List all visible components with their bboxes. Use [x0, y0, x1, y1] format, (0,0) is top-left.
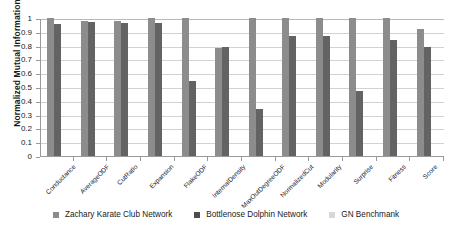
y-axis-tick-label: 0.2 — [21, 125, 32, 133]
y-axis-tick-labels: 00.10.20.30.40.50.60.70.80.91 — [0, 19, 36, 157]
y-axis-tick-label: 0.1 — [21, 139, 32, 147]
legend-item[interactable]: GN Benchmank — [329, 210, 399, 219]
bar — [249, 18, 256, 156]
x-axis-label-cell: Score — [410, 161, 444, 207]
y-axis-tick-label: 0.8 — [21, 43, 32, 51]
bar-group — [175, 19, 209, 156]
x-axis-label-cell: AverageODF — [74, 161, 108, 207]
legend-swatch-icon — [53, 212, 59, 218]
plot-area — [40, 19, 444, 157]
y-axis-tick-label: 0 — [28, 153, 32, 161]
legend-swatch-icon — [329, 212, 335, 218]
x-axis-tick-label: Expansion — [148, 163, 175, 190]
bar-group — [142, 19, 176, 156]
legend-label: GN Benchmank — [341, 210, 399, 219]
bar-group — [209, 19, 243, 156]
bar — [155, 23, 162, 156]
bar — [390, 40, 397, 156]
bar — [215, 48, 222, 156]
bar — [356, 91, 363, 156]
bar — [282, 18, 289, 156]
x-axis-tick-label: Surprise — [352, 163, 374, 185]
x-axis-tick-label: Score — [422, 163, 439, 180]
bar-chart: Normalized Mutual Information 00.10.20.3… — [0, 0, 452, 239]
x-axis-tick-label: Conductance — [44, 163, 76, 195]
x-axis-label-cell: CutRatio — [107, 161, 141, 207]
x-axis-label-cell: MaxOutDegreeODF — [242, 161, 276, 207]
x-axis-label-cell: InternalDensity — [208, 161, 242, 207]
bar — [121, 23, 128, 156]
bar — [54, 24, 61, 156]
legend-label: Zachary Karate Club Network — [65, 210, 172, 219]
x-axis-label-cell: FlakeODF — [175, 161, 209, 207]
bar — [88, 22, 95, 156]
bar — [349, 18, 356, 156]
bar — [383, 18, 390, 156]
x-axis-tick-label: FlakeODF — [182, 163, 208, 189]
x-axis-label-cell: Surprise — [343, 161, 377, 207]
bar-group — [75, 19, 109, 156]
x-axis-tick-label: CutRatio — [116, 163, 139, 186]
bar — [222, 47, 229, 156]
bar — [47, 18, 54, 156]
y-axis-tick-label: 0.9 — [21, 29, 32, 37]
y-axis-tick-label: 0.7 — [21, 56, 32, 64]
bar — [323, 36, 330, 156]
chart-legend: Zachary Karate Club NetworkBottlenose Do… — [0, 210, 452, 219]
x-axis-tick-label: Modularity — [316, 163, 342, 189]
legend-label: Bottlenose Dolphin Network — [206, 210, 307, 219]
bar — [182, 18, 189, 156]
x-axis-tick-labels: ConductanceAverageODFCutRatioExpansionFl… — [40, 161, 444, 207]
y-axis-tick-label: 0.6 — [21, 70, 32, 78]
bar-group — [108, 19, 142, 156]
bar — [189, 81, 196, 156]
bar-group — [310, 19, 344, 156]
bar — [114, 21, 121, 156]
bar-group — [343, 19, 377, 156]
x-axis-label-cell: Expansion — [141, 161, 175, 207]
y-axis-tick-label: 0.4 — [21, 98, 32, 106]
bar-group — [377, 19, 411, 156]
x-axis-tick-label: Fitness — [387, 163, 407, 183]
legend-swatch-icon — [194, 212, 200, 218]
bar — [424, 47, 431, 156]
bar — [256, 109, 263, 156]
legend-item[interactable]: Bottlenose Dolphin Network — [194, 210, 307, 219]
legend-item[interactable]: Zachary Karate Club Network — [53, 210, 172, 219]
bar — [316, 18, 323, 156]
bar — [417, 29, 424, 156]
y-axis-tick-label: 0.5 — [21, 84, 32, 92]
bar — [81, 21, 88, 156]
bar — [289, 36, 296, 156]
x-axis-tick-label: AverageODF — [78, 163, 110, 195]
x-axis-label-cell: Modularity — [309, 161, 343, 207]
x-axis-label-cell: Fitness — [377, 161, 411, 207]
bar — [148, 18, 155, 156]
bar-group — [242, 19, 276, 156]
x-axis-label-cell: Conductance — [40, 161, 74, 207]
bar-groups — [41, 19, 444, 156]
bar-group — [276, 19, 310, 156]
y-axis-tick-label: 0.3 — [21, 112, 32, 120]
bar-group — [410, 19, 444, 156]
y-axis-tick-label: 1 — [28, 15, 32, 23]
bar-group — [41, 19, 75, 156]
x-axis-label-cell: NormalizedCut — [276, 161, 310, 207]
